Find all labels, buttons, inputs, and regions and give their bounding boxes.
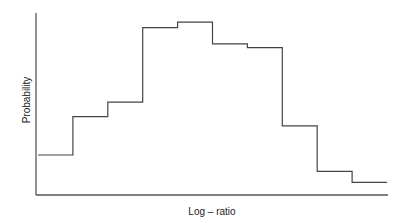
histogram-outline [38, 22, 387, 182]
histogram-chart: Log – ratio Probability [0, 0, 408, 220]
x-axis-label: Log – ratio [188, 206, 236, 217]
y-axis-label: Probability [21, 77, 32, 124]
histogram-steps [38, 22, 387, 182]
